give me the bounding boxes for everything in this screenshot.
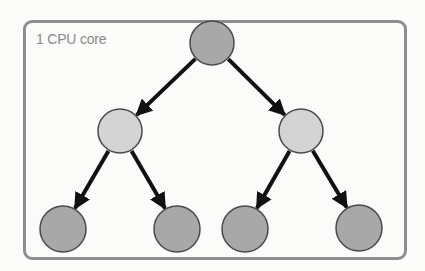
tree-node-leaf-1	[40, 206, 86, 252]
edge-arrow	[75, 151, 108, 208]
tree-node-leaf-2	[154, 206, 200, 252]
edge-arrow	[132, 151, 165, 208]
tree-node-mid-right	[279, 109, 323, 153]
edge-arrow	[313, 151, 347, 208]
task-tree-diagram	[0, 0, 425, 271]
edge-arrow	[257, 151, 290, 208]
tree-node-mid-left	[98, 109, 142, 153]
edge-arrow	[137, 59, 196, 115]
tree-node-leaf-3	[222, 206, 268, 252]
edge-arrow	[228, 59, 284, 115]
tree-node-root	[190, 21, 234, 65]
tree-node-leaf-4	[336, 205, 382, 251]
